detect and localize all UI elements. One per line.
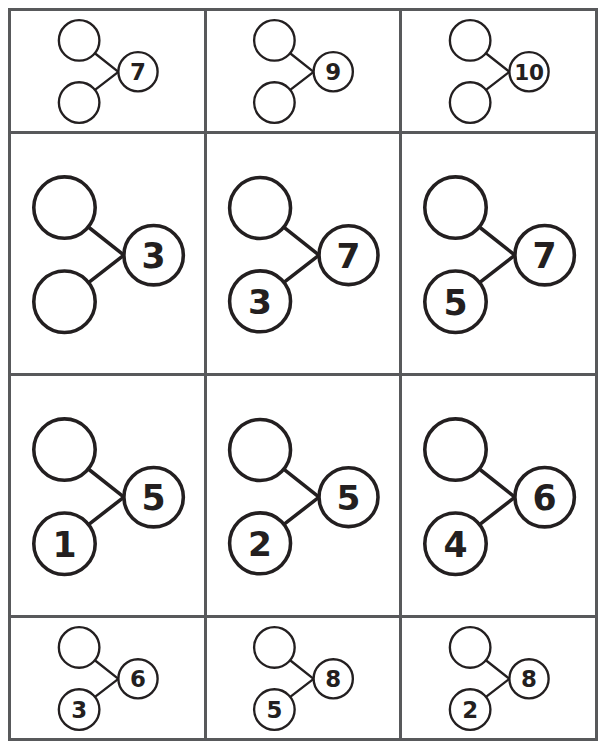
- grid-cell[interactable]: 10: [400, 11, 595, 132]
- whole-circle-value: 6: [532, 478, 556, 518]
- number-bond-diagram[interactable]: 36: [11, 618, 204, 738]
- number-bond-diagram[interactable]: 3: [11, 134, 204, 373]
- whole-circle[interactable]: 7: [515, 225, 574, 284]
- part-circle-bottom-value: 2: [248, 524, 272, 564]
- part-circle-bottom[interactable]: 3: [59, 690, 100, 731]
- grid-cell[interactable]: 36: [11, 617, 206, 738]
- number-bond-diagram[interactable]: 10: [402, 11, 595, 131]
- whole-circle[interactable]: 3: [124, 225, 183, 284]
- bond-connector-top: [95, 53, 119, 72]
- part-circle-top-outline: [254, 20, 295, 61]
- part-circle-top[interactable]: [425, 419, 486, 480]
- part-circle-top[interactable]: [34, 419, 95, 480]
- bond-canvas: 9: [207, 11, 399, 131]
- part-circle-bottom[interactable]: [450, 82, 491, 123]
- number-bond-diagram[interactable]: 37: [207, 134, 399, 373]
- whole-circle-value: 10: [514, 60, 543, 85]
- part-circle-top[interactable]: [34, 177, 95, 238]
- part-circle-top[interactable]: [425, 177, 486, 238]
- number-bond-grid: 7 9 10 3 37 57 15 25 46 36 58 28: [11, 11, 595, 738]
- part-circle-bottom[interactable]: 5: [254, 690, 295, 731]
- grid-cell[interactable]: 9: [206, 11, 401, 132]
- grid-cell[interactable]: 58: [206, 617, 401, 738]
- part-circle-top[interactable]: [59, 627, 100, 668]
- part-circle-top[interactable]: [59, 20, 100, 61]
- part-circle-bottom[interactable]: [34, 271, 95, 332]
- number-bond-diagram[interactable]: 15: [11, 376, 204, 615]
- grid-cell[interactable]: 57: [400, 132, 595, 374]
- whole-circle[interactable]: 6: [118, 660, 157, 699]
- grid-cell[interactable]: 15: [11, 374, 206, 616]
- bond-connector-top: [479, 227, 515, 255]
- whole-circle-value: 8: [521, 667, 537, 693]
- bond-connector-bottom: [290, 679, 313, 697]
- part-circle-top[interactable]: [230, 177, 291, 238]
- part-circle-bottom[interactable]: 5: [425, 271, 486, 332]
- grid-cell[interactable]: 25: [206, 374, 401, 616]
- number-bond-diagram[interactable]: 28: [402, 618, 595, 738]
- part-circle-bottom[interactable]: 2: [230, 513, 291, 574]
- part-circle-top[interactable]: [230, 419, 291, 480]
- whole-circle-value: 8: [325, 667, 341, 693]
- part-circle-bottom-value: 4: [443, 525, 467, 565]
- part-circle-top-outline: [34, 419, 95, 480]
- part-circle-top[interactable]: [254, 627, 295, 668]
- part-circle-top[interactable]: [254, 20, 295, 61]
- number-bond-diagram[interactable]: 7: [11, 11, 204, 131]
- part-circle-bottom-value: 3: [71, 698, 87, 724]
- part-circle-top-outline: [425, 177, 486, 238]
- whole-circle[interactable]: 5: [124, 467, 183, 526]
- grid-row: 36 58 28: [11, 617, 595, 738]
- part-circle-top-outline: [450, 20, 491, 61]
- number-bond-diagram[interactable]: 58: [207, 618, 399, 738]
- whole-circle[interactable]: 7: [118, 52, 157, 91]
- bond-connector-top: [88, 227, 124, 255]
- bond-connector-top: [284, 469, 319, 497]
- bond-canvas: 57: [402, 134, 595, 373]
- part-circle-top[interactable]: [450, 20, 491, 61]
- whole-circle[interactable]: 10: [509, 52, 548, 91]
- bond-canvas: 25: [207, 376, 399, 615]
- bond-canvas: 46: [402, 376, 595, 615]
- part-circle-bottom[interactable]: [254, 82, 295, 123]
- number-bond-diagram[interactable]: 57: [402, 134, 595, 373]
- whole-circle[interactable]: 8: [509, 660, 548, 699]
- part-circle-bottom[interactable]: 1: [34, 513, 95, 574]
- bond-connector-top: [95, 661, 119, 680]
- part-circle-bottom[interactable]: 3: [230, 271, 291, 332]
- bond-connector-bottom: [89, 497, 124, 524]
- part-circle-bottom-value: 1: [52, 525, 76, 565]
- part-circle-bottom[interactable]: [59, 82, 100, 123]
- whole-circle[interactable]: 5: [319, 468, 378, 527]
- grid-cell[interactable]: 46: [400, 374, 595, 616]
- whole-circle[interactable]: 7: [319, 225, 378, 284]
- whole-circle-value: 5: [337, 478, 361, 518]
- grid-cell[interactable]: 37: [206, 132, 401, 374]
- whole-circle-value: 6: [130, 667, 146, 693]
- bond-connector-top: [479, 469, 515, 497]
- part-circle-bottom-value: 2: [462, 698, 478, 724]
- number-bond-diagram[interactable]: 25: [207, 376, 399, 615]
- grid-row: 7 9 10: [11, 11, 595, 132]
- number-bond-diagram[interactable]: 9: [207, 11, 399, 131]
- whole-circle-value: 3: [142, 236, 166, 276]
- worksheet-page: 7 9 10 3 37 57 15 25 46 36 58 28: [0, 0, 607, 751]
- bond-connector-top: [88, 469, 124, 497]
- number-bond-diagram[interactable]: 46: [402, 376, 595, 615]
- part-circle-bottom[interactable]: 2: [450, 690, 491, 731]
- part-circle-bottom[interactable]: 4: [425, 513, 486, 574]
- grid-cell[interactable]: 28: [400, 617, 595, 738]
- grid-row: 15 25 46: [11, 374, 595, 616]
- whole-circle[interactable]: 8: [314, 660, 353, 699]
- bond-connector-bottom: [95, 679, 118, 697]
- bond-connector-bottom: [95, 72, 118, 90]
- whole-circle[interactable]: 6: [515, 467, 574, 526]
- bond-canvas: 7: [11, 11, 204, 131]
- bond-connector-bottom: [284, 255, 319, 282]
- part-circle-top[interactable]: [450, 627, 491, 668]
- whole-circle[interactable]: 9: [314, 52, 353, 91]
- grid-cell[interactable]: 3: [11, 132, 206, 374]
- part-circle-top-outline: [230, 177, 291, 238]
- part-circle-bottom-outline: [34, 271, 95, 332]
- grid-cell[interactable]: 7: [11, 11, 206, 132]
